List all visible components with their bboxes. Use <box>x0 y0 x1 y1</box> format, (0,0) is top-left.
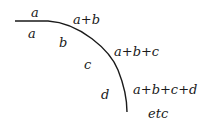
cumulative-label-ab: a+b <box>73 12 100 27</box>
cumulative-label-abcd: a+b+c+d <box>133 82 197 97</box>
segment-label-c: c <box>84 57 92 72</box>
etc-label: etc <box>148 106 169 121</box>
cumulative-curve-diagram: a b c d a a+b a+b+c a+b+c+d etc <box>0 0 198 125</box>
segment-label-a: a <box>28 26 36 41</box>
cumulative-label-abc: a+b+c <box>114 44 160 59</box>
segment-label-b: b <box>59 35 67 50</box>
segment-label-d: d <box>101 87 109 102</box>
cumulative-label-a: a <box>31 5 39 20</box>
